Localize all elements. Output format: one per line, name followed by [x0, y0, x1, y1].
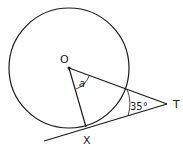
radius-OX — [69, 68, 86, 127]
label-X: X — [83, 134, 91, 147]
label-T: T — [172, 98, 180, 111]
label-O: O — [60, 53, 69, 66]
label-35-degrees: 35° — [130, 101, 148, 112]
center-point-O — [67, 66, 70, 69]
label-a: a — [79, 78, 85, 89]
tangent-line-XT — [44, 104, 167, 141]
geometry-diagram: O a 35° T X — [0, 0, 183, 149]
